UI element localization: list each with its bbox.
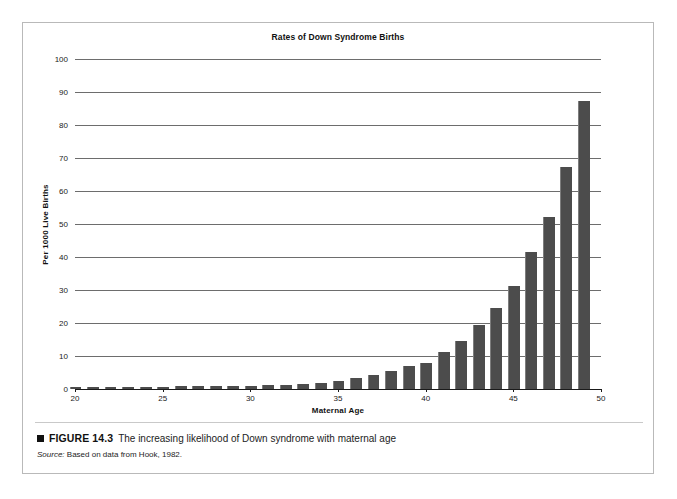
bar xyxy=(455,341,467,390)
x-tick-label: 35 xyxy=(334,394,343,403)
figure-frame: Rates of Down Syndrome Births Per 1000 L… xyxy=(22,22,654,474)
bar xyxy=(385,371,397,389)
caption-marker-icon xyxy=(37,435,44,442)
bar xyxy=(543,217,555,389)
chart-title: Rates of Down Syndrome Births xyxy=(23,32,653,42)
source-label: Source: xyxy=(37,450,65,459)
y-tick-label: 90 xyxy=(59,88,68,97)
bar xyxy=(578,101,590,389)
bar xyxy=(473,325,485,389)
x-tick-label: 25 xyxy=(158,394,167,403)
x-tick xyxy=(601,389,602,392)
x-tick xyxy=(250,389,251,392)
source-text: Based on data from Hook, 1982. xyxy=(67,450,182,459)
bar xyxy=(490,308,502,389)
x-tick xyxy=(513,389,514,392)
x-axis-title: Maternal Age xyxy=(75,406,601,415)
y-tick-label: 30 xyxy=(59,286,68,295)
y-tick-label: 60 xyxy=(59,187,68,196)
y-tick-label: 10 xyxy=(59,352,68,361)
x-tick xyxy=(426,389,427,392)
bar xyxy=(368,375,380,389)
figure-caption: FIGURE 14.3 The increasing likelihood of… xyxy=(37,432,641,459)
bar-series xyxy=(75,59,601,389)
x-tick-label: 45 xyxy=(509,394,518,403)
y-tick-label: 50 xyxy=(59,220,68,229)
y-tick-label: 0 xyxy=(64,385,68,394)
x-tick xyxy=(75,389,76,392)
x-tick-label: 50 xyxy=(597,394,606,403)
x-axis: 20253035404550 xyxy=(75,389,601,390)
bar xyxy=(350,378,362,389)
x-tick xyxy=(338,389,339,392)
bar xyxy=(525,252,537,389)
bar xyxy=(560,167,572,389)
y-tick-label: 100 xyxy=(55,55,68,64)
bar xyxy=(438,352,450,389)
x-tick-label: 40 xyxy=(421,394,430,403)
figure-source: Source: Based on data from Hook, 1982. xyxy=(37,450,641,459)
y-tick-label: 80 xyxy=(59,121,68,130)
bar xyxy=(333,381,345,389)
y-tick-label: 20 xyxy=(59,319,68,328)
y-tick-label: 70 xyxy=(59,154,68,163)
y-axis-title: Per 1000 Live Births xyxy=(39,59,51,389)
caption-divider xyxy=(35,422,643,423)
caption-text: The increasing likelihood of Down syndro… xyxy=(118,433,396,444)
bar xyxy=(420,363,432,389)
bar xyxy=(403,366,415,389)
bar xyxy=(508,286,520,389)
plot-area: 0102030405060708090100 xyxy=(75,59,601,389)
y-tick-label: 40 xyxy=(59,253,68,262)
x-tick-label: 20 xyxy=(71,394,80,403)
x-tick-label: 30 xyxy=(246,394,255,403)
figure-number: FIGURE 14.3 xyxy=(49,432,113,444)
x-tick xyxy=(163,389,164,392)
y-axis-title-label: Per 1000 Live Births xyxy=(41,184,50,264)
